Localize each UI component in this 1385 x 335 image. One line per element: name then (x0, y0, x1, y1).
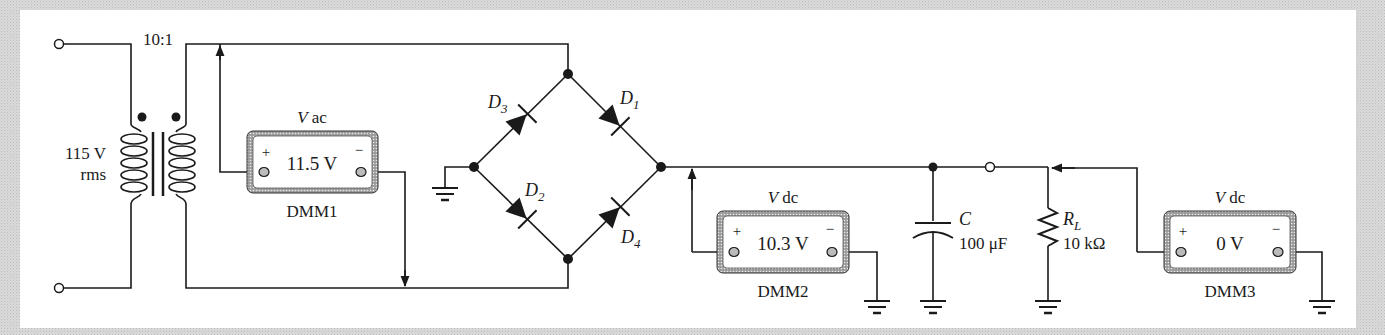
capacitor-value-label: 100 μF (959, 234, 1007, 253)
source-voltage-label: 115 V (65, 144, 107, 163)
diode-d4-label: D4 (620, 227, 641, 251)
dmm3-mode-label: Vdc (1215, 188, 1246, 207)
diode-d3-label: D3 (487, 92, 508, 116)
capacitor-name-label: C (959, 209, 972, 229)
input-terminal-top (55, 40, 64, 49)
polarity-dot-secondary (172, 113, 181, 122)
dmm2-reading: 10.3 V (757, 233, 809, 254)
dmm2-minus-probe-jack (827, 248, 837, 257)
open-connection-terminal (986, 163, 995, 172)
dmm3-minus-probe-jack (1273, 248, 1283, 257)
polarity-dot-primary (138, 113, 147, 122)
dmm1-name: DMM1 (286, 202, 337, 221)
dmm3-plus-probe-jack (1176, 248, 1186, 257)
resistor-value-label: 10 kΩ (1063, 234, 1105, 253)
dmm3-reading: 0 V (1216, 233, 1244, 254)
dmm1-meter: + − 11.5 V (247, 131, 378, 193)
ground-symbol-capacitor (920, 301, 946, 313)
resistor-rl (1039, 208, 1057, 246)
dmm3-meter: + − 0 V (1164, 211, 1296, 273)
resistor-name-label: RL (1062, 209, 1081, 233)
bridge-node-bottom (563, 254, 573, 264)
ground-symbol-dmm3 (1309, 301, 1335, 313)
bridge-node-top (563, 69, 573, 79)
diode-d1-label: D1 (619, 88, 640, 112)
source-rms-label: rms (81, 165, 107, 184)
diode-d2-label: D2 (524, 180, 545, 204)
transformer-primary-coil (121, 124, 147, 204)
dmm1-plus-probe-jack (259, 168, 269, 177)
dmm2-mode-label: Vdc (768, 188, 799, 207)
transformer-ratio-label: 10:1 (143, 30, 173, 49)
transformer-core (153, 132, 163, 196)
input-terminal-bottom (55, 284, 64, 293)
dmm3-plus-sign: + (1179, 223, 1187, 239)
ground-symbol-dmm2 (864, 301, 890, 313)
dmm2-name: DMM2 (757, 282, 808, 301)
dmm2-minus-sign: − (826, 221, 834, 237)
dmm1-mode-label: Vac (297, 108, 327, 127)
transformer-secondary-coil (169, 124, 195, 204)
dmm1-plus-sign: + (262, 144, 270, 160)
circuit-schematic: 10:1 115 V rms + − 11.5 V Vac DMM1 (0, 0, 1385, 335)
schematic-panel: 10:1 115 V rms + − 11.5 V Vac DMM1 (20, 10, 1356, 328)
dmm2-plus-sign: + (733, 223, 741, 239)
dmm1-minus-probe-jack (356, 168, 366, 177)
dmm3-minus-sign: − (1272, 221, 1280, 237)
dmm2-plus-probe-jack (729, 248, 739, 257)
dmm1-reading: 11.5 V (287, 153, 338, 174)
dmm1-minus-sign: − (355, 142, 363, 158)
ground-symbol-resistor (1035, 301, 1061, 313)
ground-symbol-bridge (432, 188, 458, 200)
dmm2-meter: + − 10.3 V (717, 211, 849, 273)
dmm3-name: DMM3 (1204, 282, 1255, 301)
